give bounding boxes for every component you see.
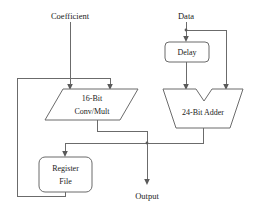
junction-dot-output bbox=[146, 142, 149, 145]
wire-to-register-file bbox=[62, 143, 68, 157]
label-coefficient: Coefficient bbox=[51, 11, 90, 21]
block-register-file[interactable]: Register File bbox=[39, 157, 92, 192]
wire-output bbox=[144, 143, 150, 185]
wire-delay-to-adder bbox=[183, 62, 189, 90]
block-conv-mult[interactable]: 16-Bit Conv/Mult bbox=[45, 89, 138, 120]
wire-data-input bbox=[183, 22, 189, 42]
register-file-label-line1: Register bbox=[52, 164, 79, 173]
wire-adder-output bbox=[65, 128, 203, 143]
adder-label: 24-Bit Adder bbox=[182, 108, 224, 117]
wire-mult-output bbox=[97, 120, 147, 143]
conv-mult-label-line2: Conv/Mult bbox=[74, 107, 110, 116]
register-file-box bbox=[39, 157, 92, 192]
block-diagram-svg: Delay 16-Bit Conv/Mult 24-Bit Adder Regi… bbox=[0, 0, 260, 216]
junction-dot-data bbox=[185, 29, 188, 32]
block-diagram-canvas: Delay 16-Bit Conv/Mult 24-Bit Adder Regi… bbox=[0, 0, 260, 216]
register-file-label-line2: File bbox=[59, 177, 72, 186]
label-data: Data bbox=[178, 11, 194, 21]
label-output: Output bbox=[135, 191, 159, 201]
block-delay[interactable]: Delay bbox=[165, 42, 209, 62]
block-adder[interactable]: 24-Bit Adder bbox=[163, 89, 243, 128]
conv-mult-label-line1: 16-Bit bbox=[82, 94, 103, 103]
delay-label: Delay bbox=[177, 48, 196, 57]
